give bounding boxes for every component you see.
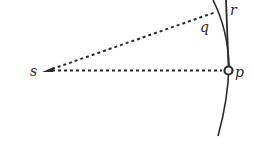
straight-line-r-to-p (226, 0, 229, 66)
label-r: r (230, 2, 238, 18)
point-p-circle (225, 67, 233, 75)
label-p: p (235, 64, 244, 80)
label-q: q (200, 19, 209, 35)
arrowhead-icon (42, 67, 54, 72)
label-s: s (30, 63, 37, 79)
dashed-line-s-to-r (52, 12, 216, 69)
wavefront-diagram: s p q r (0, 0, 254, 168)
